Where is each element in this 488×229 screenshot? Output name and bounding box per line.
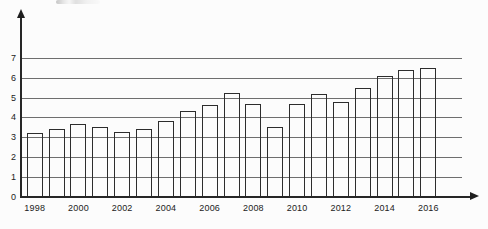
bar-2016	[420, 68, 436, 197]
y-tick-label-0: 0	[2, 192, 16, 202]
x-tick-label-2000: 2000	[62, 203, 94, 213]
x-tick-label-1998: 1998	[19, 203, 51, 213]
bar-2007	[224, 93, 240, 197]
bar-2009	[267, 127, 283, 197]
gridline-6	[21, 78, 462, 79]
scanned-bar-chart-figure: 01234567 1998200020022004200620082010201…	[0, 0, 488, 229]
y-tick-label-1: 1	[2, 172, 16, 182]
x-tick-label-2012: 2012	[325, 203, 357, 213]
gridline-2	[21, 157, 462, 158]
bar-2014	[377, 76, 393, 197]
bar-1998	[27, 133, 43, 197]
y-tick-label-7: 7	[2, 53, 16, 63]
y-tick-label-3: 3	[2, 132, 16, 142]
x-tick-label-2008: 2008	[237, 203, 269, 213]
bar-1999	[49, 129, 65, 197]
x-axis-arrow-icon	[470, 192, 479, 200]
y-axis-arrow-icon	[17, 9, 25, 18]
bar-2012	[333, 102, 349, 197]
bar-chart: 01234567 1998200020022004200620082010201…	[0, 0, 488, 229]
x-tick-label-2004: 2004	[150, 203, 182, 213]
x-tick-label-2002: 2002	[106, 203, 138, 213]
y-axis	[20, 16, 22, 198]
gridline-5	[21, 98, 462, 99]
gridline-7	[21, 58, 462, 59]
bar-2004	[158, 121, 174, 197]
x-tick-label-2006: 2006	[194, 203, 226, 213]
x-axis	[21, 196, 471, 198]
bar-2001	[92, 127, 108, 197]
x-tick-label-2014: 2014	[369, 203, 401, 213]
gridline-4	[21, 117, 462, 118]
y-tick-label-2: 2	[2, 152, 16, 162]
bar-2002	[114, 132, 130, 197]
bar-2005	[180, 111, 196, 197]
bar-2000	[70, 124, 86, 197]
y-tick-label-6: 6	[2, 73, 16, 83]
y-tick-label-4: 4	[2, 112, 16, 122]
bar-2008	[245, 104, 261, 197]
bar-2013	[355, 88, 371, 197]
bar-2003	[136, 129, 152, 197]
gridline-1	[21, 177, 462, 178]
gridline-3	[21, 137, 462, 138]
bar-2010	[289, 104, 305, 197]
bar-2006	[202, 105, 218, 197]
bar-2011	[311, 94, 327, 197]
y-tick-label-5: 5	[2, 93, 16, 103]
x-tick-label-2010: 2010	[281, 203, 313, 213]
bar-2015	[398, 70, 414, 197]
x-tick-label-2016: 2016	[412, 203, 444, 213]
